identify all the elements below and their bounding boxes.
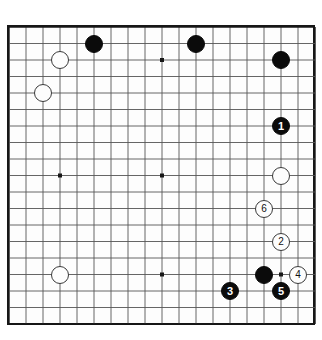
black-stone-upper-right xyxy=(272,51,290,69)
numbered-stone-4-label: 4 xyxy=(295,270,301,280)
numbered-stone-5: 5 xyxy=(272,282,290,300)
white-stone-upper-left-high xyxy=(51,51,69,69)
numbered-stone-1-label: 1 xyxy=(278,121,284,132)
black-stone-lower-right xyxy=(255,266,273,284)
white-stone-lower-left xyxy=(51,266,69,284)
numbered-stone-4: 4 xyxy=(289,266,307,284)
numbered-stone-6: 6 xyxy=(255,200,273,218)
white-stone-right-side xyxy=(272,167,290,185)
numbered-stone-6-label: 6 xyxy=(261,204,267,214)
black-stone-upper-center xyxy=(187,35,205,53)
numbered-stone-5-label: 5 xyxy=(278,286,284,297)
black-stone-upper-left-area xyxy=(85,35,103,53)
numbered-stone-2-label: 2 xyxy=(278,237,284,247)
numbered-stone-2: 2 xyxy=(272,233,290,251)
go-board-diagram: 162435 xyxy=(0,0,322,340)
numbered-stone-3-label: 3 xyxy=(227,286,233,297)
white-stone-upper-left-low xyxy=(34,84,52,102)
numbered-stone-1: 1 xyxy=(272,117,290,135)
numbered-stone-3: 3 xyxy=(221,282,239,300)
